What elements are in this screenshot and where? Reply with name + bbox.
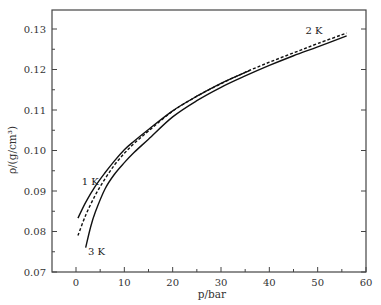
x-tick-label: 60 bbox=[360, 277, 373, 288]
curve-label-2k: 2 K bbox=[306, 25, 324, 36]
x-axis-ticks: 0102030405060 bbox=[73, 267, 373, 288]
x-tick-label: 30 bbox=[215, 277, 228, 288]
y-axis-label: ρ/(g/cm³) bbox=[6, 126, 18, 174]
y-tick-label: 0.10 bbox=[24, 145, 46, 156]
x-tick-label: 0 bbox=[73, 277, 79, 288]
y-tick-label: 0.13 bbox=[24, 24, 46, 35]
curve-label-3k: 3 K bbox=[88, 246, 106, 257]
x-tick-label: 10 bbox=[118, 277, 131, 288]
x-tick-label: 50 bbox=[311, 277, 324, 288]
density-pressure-chart: 0.070.080.090.100.110.120.13 01020304050… bbox=[0, 0, 381, 305]
y-tick-label: 0.11 bbox=[24, 105, 46, 116]
series-line-2k bbox=[78, 33, 347, 236]
plot-frame bbox=[52, 10, 366, 272]
y-tick-label: 0.12 bbox=[24, 64, 46, 75]
y-tick-label: 0.08 bbox=[24, 226, 46, 237]
y-tick-label: 0.07 bbox=[24, 267, 46, 278]
y-axis-ticks: 0.070.080.090.100.110.120.13 bbox=[24, 24, 366, 278]
data-series bbox=[78, 33, 347, 248]
x-tick-label: 40 bbox=[263, 277, 276, 288]
x-tick-label: 20 bbox=[166, 277, 179, 288]
x-axis-label: p/bar bbox=[198, 288, 227, 300]
curve-labels: 1 K2 K3 K bbox=[82, 25, 323, 257]
y-tick-label: 0.09 bbox=[24, 186, 46, 197]
plot-area-border bbox=[52, 10, 366, 272]
curve-label-1k: 1 K bbox=[82, 176, 100, 187]
series-line-3k bbox=[86, 36, 347, 248]
series-line-1k bbox=[78, 70, 250, 218]
